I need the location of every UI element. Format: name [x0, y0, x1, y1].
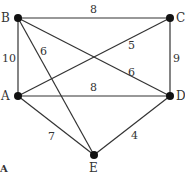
- node-label-d: D: [176, 89, 185, 103]
- edge-d-e: [94, 96, 170, 155]
- corner-label: A: [0, 163, 8, 172]
- weight-b-e: 6: [40, 45, 47, 58]
- weight-a-d: 8: [90, 81, 97, 94]
- weight-b-c: 8: [90, 3, 97, 16]
- weight-a-e: 7: [48, 130, 55, 143]
- node-label-e: E: [89, 161, 98, 172]
- node-label-a: A: [0, 89, 10, 103]
- node-b: [14, 14, 22, 22]
- weight-a-c: 5: [128, 39, 135, 52]
- node-label-c: C: [176, 11, 185, 25]
- edge-b-e: [18, 18, 94, 155]
- node-c: [166, 14, 174, 22]
- edge-a-e: [18, 96, 94, 155]
- node-e: [90, 151, 98, 159]
- node-d: [166, 92, 174, 100]
- weight-b-d: 6: [128, 66, 135, 79]
- graph-diagram: B C A D E 8 10 6 6 5 8 9 7 4 A: [0, 0, 185, 172]
- node-label-b: B: [1, 11, 10, 25]
- weight-b-a: 10: [2, 52, 16, 65]
- node-a: [14, 92, 22, 100]
- weight-c-d: 9: [173, 52, 180, 65]
- weight-d-e: 4: [131, 129, 138, 142]
